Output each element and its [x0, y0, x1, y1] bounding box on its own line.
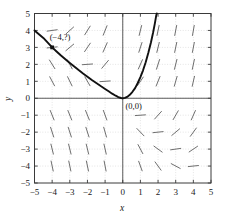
x-axis-title: x	[119, 203, 125, 213]
y-tick-label: −1	[20, 110, 30, 120]
y-tick-label: 2	[26, 60, 31, 70]
y-tick-label: −3	[20, 144, 30, 154]
x-tick-label: 2	[156, 187, 161, 197]
y-tick-label: −2	[20, 127, 30, 137]
y-tick-label: −5	[20, 178, 30, 188]
point-annotation-label: (−4,?)	[50, 32, 71, 42]
y-tick-label: 4	[26, 26, 31, 36]
x-tick-label: −3	[65, 187, 75, 197]
x-tick-label: −5	[30, 187, 40, 197]
x-tick-label: 4	[191, 187, 196, 197]
x-tick-label: 3	[173, 187, 178, 197]
y-axis-title: y	[3, 96, 13, 102]
curve-point-marker	[50, 46, 54, 50]
point-annotation-label: (0,0)	[126, 101, 142, 111]
x-tick-label: 5	[209, 187, 214, 197]
x-tick-label: −4	[47, 187, 57, 197]
x-tick-label: −2	[83, 187, 93, 197]
x-tick-label: 0	[121, 187, 126, 197]
curve-point-markers	[50, 46, 54, 50]
y-tick-label: 1	[26, 77, 31, 87]
plot-canvas: −5−4−3−2−1012345 543210−1−2−3−4−5 (−4,?)…	[0, 0, 227, 218]
x-tick-label: 1	[138, 187, 143, 197]
y-tick-label: −4	[20, 161, 30, 171]
slope-field-figure: −5−4−3−2−1012345 543210−1−2−3−4−5 (−4,?)…	[0, 0, 227, 218]
y-tick-label: 3	[26, 43, 31, 53]
x-tick-label: −1	[100, 187, 110, 197]
y-tick-label: 0	[26, 93, 31, 103]
y-tick-label: 5	[26, 9, 31, 19]
